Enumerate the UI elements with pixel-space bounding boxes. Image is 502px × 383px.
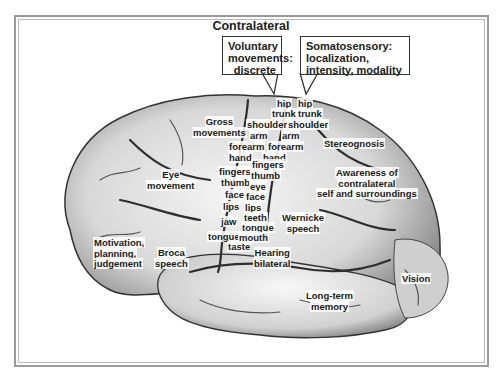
sensory-thumb: thumb	[250, 171, 281, 182]
label-gross-movements: Gross movements	[192, 117, 247, 138]
sensory-shoulder: shoulder	[287, 120, 329, 131]
motor-fingers: fingers	[218, 167, 252, 178]
motor-face: face	[224, 190, 245, 201]
label-vision: Vision	[401, 274, 431, 285]
motor-hand: hand	[228, 153, 253, 164]
sensory-fingers: fingers	[251, 160, 285, 171]
callout-voluntary-movements: Voluntary movements: discrete	[222, 36, 282, 75]
sensory-forearm: forearm	[267, 142, 304, 153]
sensory-face: face	[245, 192, 266, 203]
motor-thumb: thumb	[220, 178, 251, 189]
sensory-trunk: trunk	[297, 109, 323, 120]
sensory-arm: arm	[281, 131, 300, 142]
motor-jaw: jaw	[220, 217, 237, 228]
label-eye-movement: Eye movement	[146, 170, 196, 191]
motor-forearm: forearm	[228, 142, 265, 153]
label-taste: taste	[227, 242, 251, 253]
motor-shoulder: shoulder	[246, 120, 288, 131]
label-wernicke: Wernicke speech	[281, 213, 325, 234]
motor-trunk: trunk	[271, 109, 297, 120]
motor-lips: lips	[222, 202, 240, 213]
label-stereognosis: Stereognosis	[323, 139, 385, 150]
label-awareness: Awareness of contralateral self and surr…	[316, 168, 418, 200]
label-long-term-memory: Long-term memory	[305, 291, 354, 312]
label-hearing: Hearing bilateral	[253, 248, 291, 269]
label-broca: Broca speech	[154, 248, 189, 269]
motor-arm: arm	[249, 131, 268, 142]
callout-somatosensory: Somatosensory: localization, intensity, …	[300, 36, 410, 75]
label-motivation: Motivation, planning, judgement	[93, 238, 145, 270]
